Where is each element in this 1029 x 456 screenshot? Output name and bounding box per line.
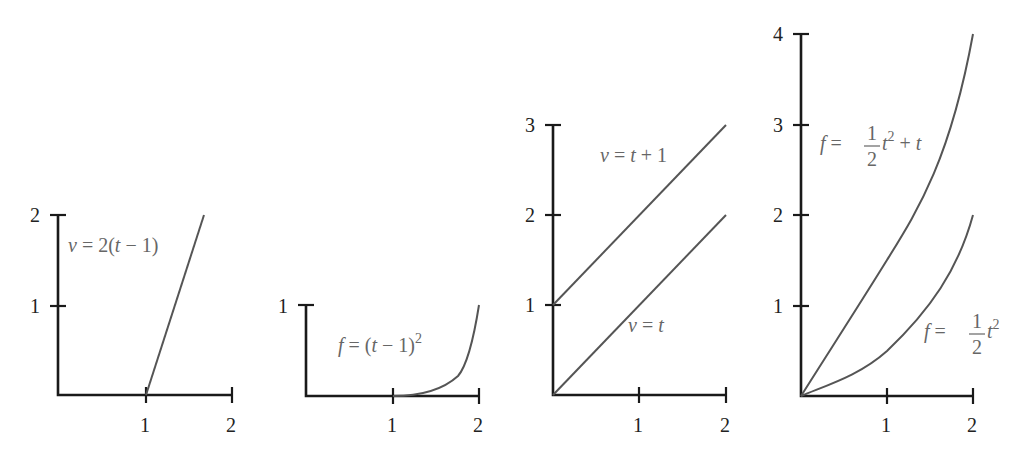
chart-1-velocity-linear: 2 1 1 2 v = 2(t − 1) (30, 204, 236, 436)
equation-label-f-half-t-sq: f = (924, 320, 946, 343)
fraction-numerator-2: 1 (972, 310, 982, 332)
x-tick-label-2: 2 (473, 414, 483, 436)
y-tick-label-2: 2 (30, 204, 40, 226)
y-tick-label-2: 2 (773, 204, 783, 226)
x-tick-label-2: 2 (226, 414, 236, 436)
x-tick-label-1: 1 (140, 414, 150, 436)
fraction-denominator-2: 2 (972, 336, 982, 358)
y-tick-label-1: 1 (525, 294, 535, 316)
y-tick-label-3: 3 (525, 114, 535, 136)
equation-label-tail-2: t2 (987, 317, 1000, 342)
equation-label-f-half-t-sq-plus-t: f = (820, 132, 842, 155)
fraction-denominator: 2 (867, 148, 877, 170)
curve-f-half-t-sq (801, 215, 973, 396)
equation-label-v-2t-1: v = 2(t − 1) (68, 234, 158, 257)
fraction-numerator: 1 (867, 122, 877, 144)
x-tick-label-2: 2 (720, 414, 730, 436)
y-tick-label-1: 1 (30, 295, 40, 317)
y-tick-label-4: 4 (773, 23, 783, 45)
equation-label-tail: t2 + t (882, 129, 922, 154)
x-tick-label-1: 1 (881, 414, 891, 436)
figure-canvas: 2 1 1 2 v = 2(t − 1) 1 1 2 f = (t − 1)2 … (0, 0, 1029, 456)
y-tick-label-1: 1 (278, 295, 288, 317)
x-tick-label-1: 1 (633, 414, 643, 436)
equation-label-v-t: v = t (628, 314, 664, 336)
x-tick-label-2: 2 (967, 414, 977, 436)
line-v-t (553, 215, 726, 395)
chart-2-position-quadratic: 1 1 2 f = (t − 1)2 (278, 295, 483, 436)
y-tick-label-1: 1 (773, 295, 783, 317)
curve-f-half-t-sq-plus-t (801, 34, 973, 396)
y-tick-label-3: 3 (773, 114, 783, 136)
equation-label-f-t-1-sq: f = (t − 1)2 (338, 331, 422, 357)
chart-4-axes (801, 34, 973, 396)
equation-label-v-t-plus-1: v = t + 1 (600, 144, 667, 166)
y-tick-label-2: 2 (525, 204, 535, 226)
x-tick-label-1: 1 (387, 414, 397, 436)
chart-4-position-quadratic-pair: 4 3 2 1 1 2 f = 1 2 t2 + t f = 1 2 t2 (773, 23, 1000, 436)
chart-3-velocity-linear-pair: 3 2 1 1 2 v = t + 1 v = t (525, 114, 730, 436)
